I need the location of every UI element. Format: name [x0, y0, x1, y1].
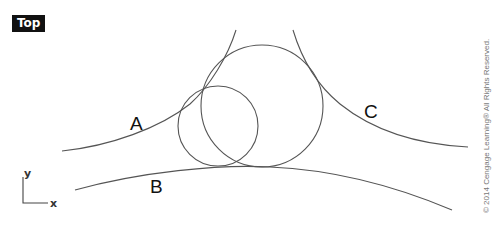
- curve-label-b: B: [150, 176, 163, 197]
- axis-label-y: y: [24, 167, 31, 180]
- drawing-canvas: A B C y x: [0, 0, 493, 226]
- curve-c: [293, 30, 468, 147]
- curve-label-c: C: [364, 101, 378, 122]
- small-circle: [178, 86, 258, 166]
- large-circle: [201, 45, 323, 167]
- curve-label-a: A: [130, 113, 143, 134]
- curve-a: [62, 30, 236, 151]
- copyright-notice: © 2014 Cengage Learning® All Rights Rese…: [482, 39, 491, 213]
- axis-indicator-icon: y x: [23, 167, 57, 210]
- curve-b: [75, 166, 452, 210]
- axis-label-x: x: [50, 197, 57, 210]
